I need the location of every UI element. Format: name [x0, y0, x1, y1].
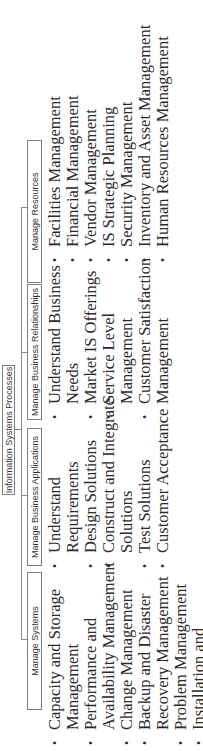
list-item: IS Strategic Planning — [100, 25, 118, 262]
list-item: Customer Acceptance — [154, 398, 172, 568]
root-node-label: Information Systems Processes — [4, 367, 14, 494]
list-item: Security Management — [118, 25, 136, 262]
list-item: Service LevelManagement — [100, 258, 136, 419]
column-box-manage-business-relationships: Manage Business Relationships — [27, 284, 42, 420]
column-label: Manage Resources — [30, 172, 40, 250]
list-item: Design Solutions — [82, 398, 100, 568]
list-item: Vendor Management — [82, 25, 100, 262]
list-item: Performance andAvailability Management — [82, 562, 118, 745]
column-label: Manage Business Relationships — [30, 288, 40, 416]
list-item: Capacity and StorageManagement — [46, 562, 82, 745]
column-box-manage-resources: Manage Resources — [27, 140, 42, 283]
list-item: Inventory and Asset Management — [136, 25, 154, 262]
list-item: Facilities Management — [46, 25, 64, 262]
root-node-box: Information Systems Processes — [2, 365, 15, 495]
column-box-manage-systems: Manage Systems — [27, 572, 42, 710]
item-list-manage-systems: Capacity and StorageManagement Performan… — [46, 562, 203, 745]
list-item: Change Management — [118, 562, 136, 745]
list-item: Backup and DisasterRecovery Management — [136, 562, 172, 745]
item-list-manage-business-relationships: Understand BusinessNeeds Market IS Offer… — [46, 258, 172, 419]
column-box-manage-business-applications: Manage Business Applications — [27, 428, 42, 566]
list-item: Market IS Offerings — [82, 258, 100, 419]
list-item: Installation and — [190, 562, 203, 745]
list-item: Test Solutions — [136, 398, 154, 568]
trunk-line — [21, 208, 22, 640]
list-item: Customer SatisfactionManagement — [136, 258, 172, 419]
column-label: Manage Business Applications — [30, 436, 40, 558]
list-item: Problem Management — [172, 562, 190, 745]
list-item: Construct and IntegrateSolutions — [100, 398, 136, 568]
list-item: Understand BusinessNeeds — [46, 258, 82, 419]
org-chart-diagram: Information Systems Processes Manage Sys… — [0, 0, 203, 751]
list-item: Human Resources Management — [154, 25, 172, 262]
item-list-manage-business-applications: UnderstandRequirements Design Solutions … — [46, 398, 172, 568]
list-item: Financial Management — [64, 25, 82, 262]
list-item: UnderstandRequirements — [46, 398, 82, 568]
item-list-manage-resources: Facilities Management Financial Manageme… — [46, 25, 172, 262]
column-label: Manage Systems — [30, 606, 40, 676]
